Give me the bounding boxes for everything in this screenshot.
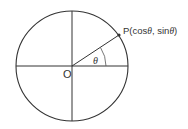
point-label: P(cosθ, sinθ): [123, 25, 177, 36]
point-label-mid: , sin: [152, 25, 169, 36]
point-label-suffix: ): [174, 25, 177, 36]
point-p: [117, 33, 120, 36]
unit-circle-diagram: θ O P(cosθ, sinθ): [0, 0, 188, 129]
point-label-prefix: P(cos: [123, 25, 148, 36]
angle-label: θ: [93, 55, 98, 66]
angle-arc: [101, 48, 107, 67]
origin-label: O: [63, 68, 72, 80]
